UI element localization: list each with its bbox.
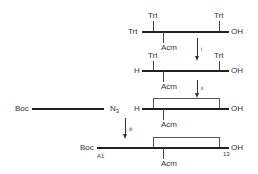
row2-backbone (142, 70, 229, 72)
row2-bond-bottom (163, 71, 164, 82)
row4-a1-label: A1 (97, 152, 104, 160)
step2-label: ii (201, 84, 203, 92)
row4-acm: Acm (161, 160, 177, 168)
row1-trt-left: Trt (128, 28, 137, 36)
row2-trt-top-left: Trt (148, 52, 157, 60)
row3-bridge-left (153, 98, 154, 108)
arrow-down-icon (195, 56, 199, 61)
row2-h: H (134, 67, 140, 75)
arrow-shaft (197, 80, 198, 94)
row2-acm: Acm (161, 83, 177, 91)
row2-trt-top-right: Trt (214, 52, 223, 60)
arrow-shaft (125, 118, 126, 135)
fragment-backbone (32, 108, 104, 110)
step1-label: i (201, 45, 202, 53)
step3-label: iii (129, 125, 132, 133)
row4-13-label: 13 (223, 150, 230, 158)
row3-oh: OH (231, 105, 243, 113)
row4-bridge-right (219, 137, 220, 147)
row3-backbone (142, 108, 229, 110)
row1-bond-bottom (163, 32, 164, 43)
row4-bridge-top (153, 137, 220, 138)
row2-bond-right (219, 61, 220, 70)
row3-bond-bottom (163, 109, 164, 120)
row4-bridge-left (153, 137, 154, 147)
row1-backbone (142, 31, 229, 33)
row3-bridge-right (219, 98, 220, 108)
arrow-shaft (197, 38, 198, 56)
fragment-boc: Boc (15, 105, 29, 113)
row2-oh: OH (231, 67, 243, 75)
row1-trt-top-left: Trt (148, 12, 157, 20)
row3-h: H (134, 105, 140, 113)
row3-acm: Acm (161, 121, 177, 129)
row4-oh: OH (231, 144, 243, 152)
row2-bond-left (153, 61, 154, 70)
row1-trt-top-right: Trt (214, 12, 223, 20)
row4-bond-bottom (163, 148, 164, 159)
row3-bridge-top (153, 98, 220, 99)
fragment-n3: N3 (110, 105, 119, 115)
arrow-down-icon (123, 134, 127, 139)
row1-oh: OH (231, 28, 243, 36)
row1-acm: Acm (161, 44, 177, 52)
row4-boc: Boc (80, 144, 94, 152)
